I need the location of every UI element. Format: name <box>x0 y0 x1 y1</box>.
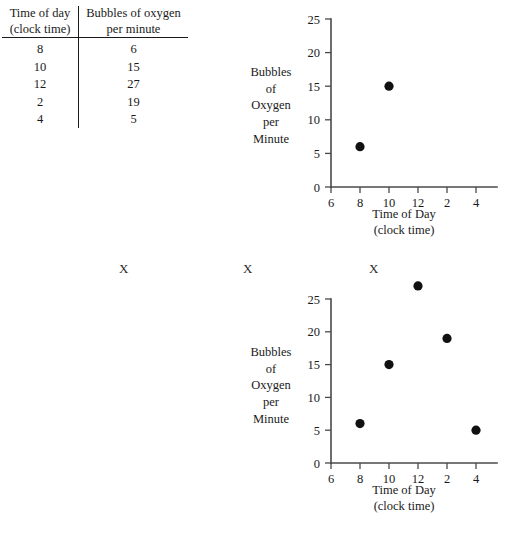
x-marker-middle: X <box>243 262 252 275</box>
chart1-xlabel-line-0: Time of Day <box>314 206 494 222</box>
chart1-ytick-label-5: 5 <box>314 147 320 161</box>
table-header-time-line1: Time of day <box>4 6 76 22</box>
chart2-ytick-label-5: 5 <box>314 424 320 438</box>
chart2-data-point <box>413 281 422 290</box>
chart1-data-point <box>355 142 364 151</box>
table-row: 8 6 <box>2 38 188 59</box>
chart2-plot-area: 0 5 10 15 20 25 6 8 10 12 2 4 <box>236 282 508 494</box>
table-header-time: Time of day (clock time) <box>2 6 79 38</box>
cell-time: 4 <box>2 111 79 129</box>
table-header-bubbles-line1: Bubbles of oxygen <box>81 6 186 22</box>
chart2-data-point <box>442 334 451 343</box>
table-row: 4 5 <box>2 111 188 129</box>
chart-complete-scatter: Bubbles of Oxygen per Minute 0 5 10 15 2… <box>236 282 508 538</box>
table-header-row: Time of day (clock time) Bubbles of oxyg… <box>2 6 188 38</box>
table-row: 10 15 <box>2 58 188 76</box>
chart1-ytick-label-10: 10 <box>308 113 321 127</box>
chart1-x-axis-label: Time of Day (clock time) <box>314 206 494 239</box>
chart2-ytick-label-25: 25 <box>308 293 321 307</box>
chart2-data-point <box>355 419 364 428</box>
chart2-ytick-label-15: 15 <box>308 358 321 372</box>
table-header-bubbles: Bubbles of oxygen per minute <box>79 6 189 38</box>
chart1-ytick-label-25: 25 <box>308 13 321 27</box>
x-marker-right: X <box>369 262 378 275</box>
table-row: 12 27 <box>2 76 188 94</box>
oxygen-data-table: Time of day (clock time) Bubbles of oxyg… <box>2 6 188 128</box>
cell-bubbles: 15 <box>79 58 189 76</box>
table-header-bubbles-line2: per minute <box>81 22 186 38</box>
chart1-ytick-label-15: 15 <box>308 80 321 94</box>
table-header-time-line2: (clock time) <box>4 22 76 38</box>
cell-bubbles: 5 <box>79 111 189 129</box>
chart1-ytick-label-0: 0 <box>314 181 320 195</box>
cell-bubbles: 6 <box>79 38 189 59</box>
chart1-plot-area: 0 5 10 15 20 25 6 8 10 12 2 4 <box>236 2 508 214</box>
cell-time: 12 <box>2 76 79 94</box>
chart2-ytick-label-20: 20 <box>308 325 321 339</box>
chart1-xlabel-line-1: (clock time) <box>314 222 494 238</box>
table-body: 8 6 10 15 12 27 2 19 4 5 <box>2 38 188 129</box>
cell-bubbles: 27 <box>79 76 189 94</box>
chart2-ytick-label-10: 10 <box>308 391 321 405</box>
chart2-data-point <box>471 426 480 435</box>
cell-time: 2 <box>2 93 79 111</box>
chart1-data-point <box>384 82 393 91</box>
chart1-ytick-label-20: 20 <box>308 46 321 60</box>
cell-bubbles: 19 <box>79 93 189 111</box>
chart2-xlabel-line-1: (clock time) <box>314 498 494 514</box>
chart2-xlabel-line-0: Time of Day <box>314 482 494 498</box>
chart2-ytick-label-0: 0 <box>314 457 320 471</box>
cell-time: 8 <box>2 38 79 59</box>
data-table-grid: Time of day (clock time) Bubbles of oxyg… <box>2 6 188 128</box>
cell-time: 10 <box>2 58 79 76</box>
chart-partial-scatter: Bubbles of Oxygen per Minute 0 5 10 15 2… <box>236 2 508 234</box>
table-row: 2 19 <box>2 93 188 111</box>
chart2-x-axis-label: Time of Day (clock time) <box>314 482 494 515</box>
x-marker-left: X <box>119 262 128 275</box>
table-header: Time of day (clock time) Bubbles of oxyg… <box>2 6 188 38</box>
chart2-data-point <box>384 360 393 369</box>
